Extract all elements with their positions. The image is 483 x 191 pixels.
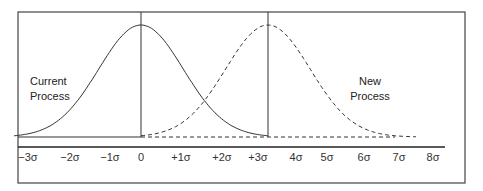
x-tick-label: 0 bbox=[138, 151, 144, 163]
x-tick-label: 4σ bbox=[290, 151, 303, 163]
new-process-label-line1: New bbox=[359, 75, 381, 87]
x-tick-label: 7σ bbox=[393, 151, 406, 163]
process-shift-chart: −3σ−2σ−1σ0+1σ+2σ+3σ4σ5σ6σ7σ8σ Current Pr… bbox=[0, 0, 483, 191]
x-tick-label: 6σ bbox=[358, 151, 371, 163]
x-tick-label: −1σ bbox=[100, 151, 120, 163]
current-process-label-line1: Current bbox=[30, 75, 67, 87]
current-process-label-line2: Process bbox=[30, 90, 70, 102]
curves bbox=[14, 25, 416, 137]
new-process-label-line2: Process bbox=[350, 90, 390, 102]
x-tick-label: −3σ bbox=[18, 151, 38, 163]
x-tick-label: +1σ bbox=[171, 151, 191, 163]
x-tick-label: +2σ bbox=[212, 151, 232, 163]
x-axis-ticks: −3σ−2σ−1σ0+1σ+2σ+3σ4σ5σ6σ7σ8σ bbox=[18, 151, 439, 163]
x-tick-label: 5σ bbox=[321, 151, 334, 163]
x-tick-label: −2σ bbox=[60, 151, 80, 163]
x-tick-label: +3σ bbox=[248, 151, 268, 163]
x-tick-label: 8σ bbox=[427, 151, 440, 163]
